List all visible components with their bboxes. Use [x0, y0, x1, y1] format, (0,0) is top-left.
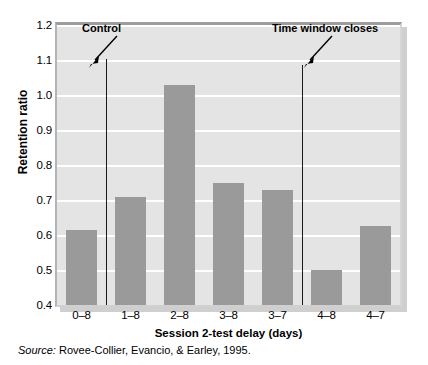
- x-axis-title: Session 2-test delay (days): [55, 327, 402, 339]
- y-axis-tick-label: 0.6: [4, 229, 52, 241]
- x-axis-tick-label: 4–8: [317, 309, 336, 321]
- bar: [164, 85, 194, 306]
- source-prefix: Source:: [18, 344, 56, 356]
- annotation-label-time-window-closes: Time window closes: [272, 22, 378, 34]
- x-axis-tick-labels: 0–81–82–83–83–74–84–7: [55, 309, 402, 327]
- gridline: [57, 130, 400, 132]
- bar: [262, 190, 292, 306]
- annotation-label-control: Control: [82, 22, 121, 34]
- y-axis-tick-label: 0.8: [4, 159, 52, 171]
- bar: [66, 230, 96, 305]
- annotation-arrow-time-window-closes: [300, 34, 334, 70]
- bar: [115, 197, 145, 306]
- y-axis-tick-labels: 0.40.50.60.70.80.91.01.11.2: [0, 22, 52, 307]
- y-axis-tick-label: 0.4: [4, 299, 52, 311]
- y-axis-tick-label: 0.7: [4, 194, 52, 206]
- x-axis-tick-label: 0–8: [72, 309, 91, 321]
- bar: [360, 226, 390, 305]
- figure: Retention ratio 0.40.50.60.70.80.91.01.1…: [0, 0, 428, 365]
- x-axis-tick-label: 3–7: [268, 309, 287, 321]
- source-text: Rovee-Collier, Evancio, & Earley, 1995.: [59, 344, 251, 356]
- x-axis-tick-label: 2–8: [170, 309, 189, 321]
- gridline: [57, 165, 400, 167]
- bar: [311, 270, 341, 305]
- source-caption: Source: Rovee-Collier, Evancio, & Earley…: [18, 344, 251, 356]
- x-axis-tick-label: 4–7: [366, 309, 385, 321]
- y-axis-tick-label: 1.2: [4, 19, 52, 31]
- annotation-arrow-control: [85, 34, 119, 70]
- gridline: [57, 95, 400, 97]
- bar: [213, 183, 243, 306]
- y-axis-tick-label: 0.9: [4, 124, 52, 136]
- x-axis-tick-label: 3–8: [219, 309, 238, 321]
- y-axis-tick-label: 1.0: [4, 89, 52, 101]
- y-axis-tick-label: 0.5: [4, 264, 52, 276]
- x-axis-tick-label: 1–8: [121, 309, 140, 321]
- divider-line-control: [106, 59, 107, 305]
- y-axis-tick-label: 1.1: [4, 54, 52, 66]
- divider-line-time-window-closes: [302, 65, 303, 305]
